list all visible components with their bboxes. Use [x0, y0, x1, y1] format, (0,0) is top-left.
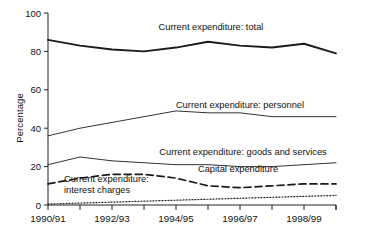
- x-tick-label: 1994/95: [158, 213, 194, 224]
- series-line: [48, 111, 336, 136]
- x-tick-label: 1992/93: [94, 213, 130, 224]
- y-tick-label: 20: [30, 161, 41, 172]
- series-line: [48, 40, 336, 53]
- series-line: [48, 157, 336, 167]
- y-tick-label: 100: [25, 8, 41, 19]
- y-tick-label: 80: [30, 46, 41, 57]
- series-annotation: interest charges: [64, 185, 130, 195]
- y-tick-label: 40: [30, 123, 41, 134]
- y-tick-label: 60: [30, 84, 41, 95]
- y-tick-label: 0: [36, 200, 41, 211]
- series-annotation: Current expenditure: goods and services: [159, 147, 327, 157]
- x-tick-label: 1990/91: [30, 213, 65, 224]
- x-tick-label: 1998/99: [286, 213, 321, 224]
- series-annotation: Current expenditure:: [64, 174, 149, 184]
- series-line: [48, 195, 336, 204]
- chart-container: Percentage 020406080100 1990/911992/9319…: [0, 0, 365, 236]
- series-annotation: Current expenditure: total: [159, 22, 264, 32]
- x-tick-label: 1996/97: [222, 213, 257, 224]
- series-annotation: Current expenditure: personnel: [176, 100, 304, 110]
- series-annotation: Capital expenditure: [198, 164, 278, 174]
- line-chart: 020406080100 1990/911992/931994/951996/9…: [0, 0, 365, 236]
- y-axis: 020406080100: [25, 8, 48, 211]
- x-axis: 1990/911992/931994/951996/971998/99: [30, 205, 336, 224]
